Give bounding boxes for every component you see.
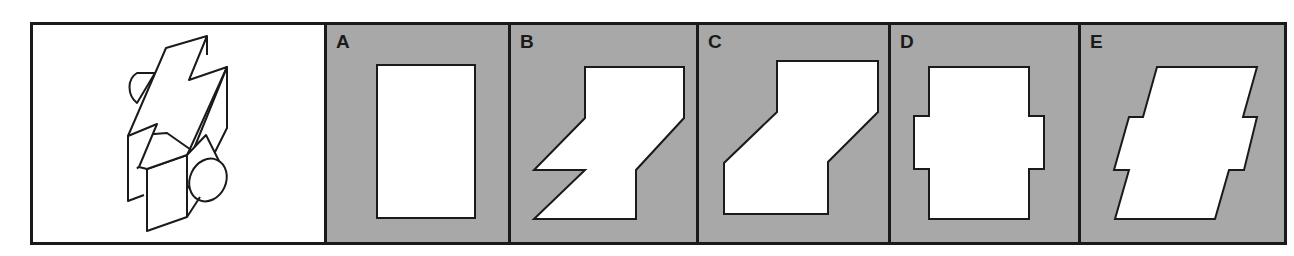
step-parallelogram-shape-icon — [699, 25, 891, 242]
option-c[interactable]: C — [699, 25, 891, 242]
option-d[interactable]: D — [891, 25, 1081, 242]
option-e[interactable]: E — [1081, 25, 1284, 242]
notched-parallelogram-shape-icon — [1081, 25, 1281, 242]
option-a[interactable]: A — [327, 25, 511, 242]
rectangle-shape-icon — [327, 25, 511, 242]
cross-rectangle-shape-icon — [891, 25, 1081, 242]
lightning-step-shape-icon — [511, 25, 699, 242]
3d-figure-icon — [33, 25, 327, 242]
question-frame: A B C D E — [30, 22, 1287, 245]
question-figure-panel — [33, 25, 327, 242]
option-b[interactable]: B — [511, 25, 699, 242]
